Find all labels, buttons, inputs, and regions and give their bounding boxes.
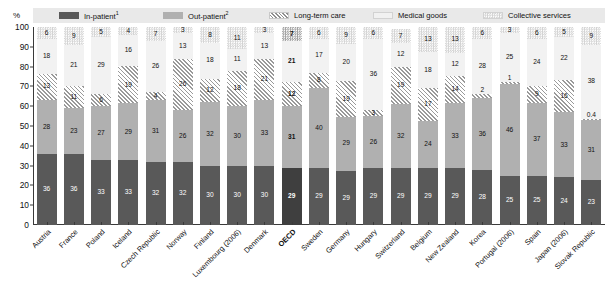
bar-segment-value: 22 (560, 55, 567, 62)
bar-segment-value: 12 (451, 61, 458, 68)
bar-stack: 920192929 (336, 27, 356, 225)
bar-segment: 6 (527, 27, 547, 39)
bar-segment: 12 (445, 53, 465, 77)
bar-stack: 63632629 (363, 27, 383, 225)
bar-segment: 14 (445, 76, 465, 103)
bar-segment-value: 18 (206, 57, 213, 64)
bar-segment: 36 (37, 154, 57, 225)
bar-segment-value: 12 (397, 51, 404, 58)
bar-column: 522163324 (550, 27, 577, 225)
x-tick-mark (74, 222, 75, 225)
bar-segment: 7 (282, 27, 302, 41)
bar-segment-value: 11 (70, 94, 77, 101)
bar-segment: 32 (200, 102, 220, 165)
x-label-cell: New Zealand (442, 226, 469, 299)
bar-segment: 25 (527, 176, 547, 225)
bar-column: 818123230 (196, 27, 223, 225)
bar-segment-value: 32 (179, 190, 186, 197)
bar-segment: 13 (254, 33, 274, 59)
bar-segment: 18 (200, 43, 220, 79)
bar-segment-value: 31 (588, 147, 595, 154)
bar-segment: 33 (118, 160, 138, 225)
bar-segment-value: 29 (125, 129, 132, 136)
plot-area: 0102030405060708090100 61813283692111233… (33, 27, 605, 225)
bar-segment: 30 (227, 106, 247, 165)
legend-item-in-patient: In-patient1 (59, 8, 119, 23)
x-label-cell: Switzerland (387, 226, 414, 299)
y-axis-unit-label: % (13, 11, 20, 20)
bar-segment-value: 3 (263, 27, 267, 34)
bar-segment-value: 32 (152, 190, 159, 197)
x-axis-country-label: Korea (468, 228, 487, 247)
bar-segment: 8 (200, 27, 220, 43)
bar-segment: 12 (282, 82, 302, 106)
bar-segment: 5 (554, 27, 574, 37)
bar-stack: 62823628 (472, 27, 492, 225)
bar-stack: 1318172429 (418, 27, 438, 225)
bar-segment-value: 36 (70, 186, 77, 193)
longterm-swatch (269, 12, 289, 19)
bar-segment: 17 (418, 88, 438, 121)
bar-segment: 6 (472, 27, 492, 39)
bar-stack: 818123230 (200, 27, 220, 225)
bar-segment: 30 (254, 166, 274, 225)
bar-segment-value: 5 (562, 29, 566, 36)
bar-segment-value: 25 (506, 54, 513, 61)
x-tick-mark (319, 222, 320, 225)
bar-segment: 29 (363, 168, 383, 225)
bar-segment-value: 18 (43, 53, 50, 60)
bar-segment-value: 46 (506, 127, 513, 134)
x-label-cell: Poland (87, 226, 114, 299)
y-tick-label: 100 (15, 22, 33, 32)
bar-segment: 31 (146, 100, 166, 161)
bar-segment-value: 37 (533, 136, 540, 143)
bar-segment-value: 6 (45, 30, 49, 37)
bar-segment-value: 30 (234, 133, 241, 140)
chart-legend: In-patient1Out-patient2Long-term careMed… (33, 8, 605, 23)
bar-segment: 9 (581, 27, 601, 45)
bar-stack: 522163324 (554, 27, 574, 225)
bar-segment: 30 (227, 166, 247, 225)
x-tick-mark (156, 222, 157, 225)
bar-segment: 7 (146, 27, 166, 41)
bar-segment-value: 16 (560, 93, 567, 100)
bar-segment-value: 12 (206, 87, 213, 94)
x-axis-country-label: Austria (30, 228, 52, 250)
bar-segment-value: 11 (234, 56, 241, 63)
bar-segment-value: 21 (261, 76, 268, 83)
bar-segment-value: 19 (343, 96, 350, 103)
x-label-cell: Denmark (251, 226, 278, 299)
x-axis-country-label: Spain (523, 228, 542, 247)
bar-segment-value: 23 (588, 199, 595, 206)
bar-segment: 4 (118, 27, 138, 35)
bar-segment-value: 29 (343, 195, 350, 202)
bar-column: 1312143329 (442, 27, 469, 225)
bar-segment: 31 (282, 106, 302, 167)
bar-segment: 26 (146, 41, 166, 92)
bar-segment-value: 28 (43, 124, 50, 131)
bar-segment: 28 (472, 170, 492, 225)
bar-segment-value: 8 (317, 77, 321, 84)
x-tick-mark (401, 222, 402, 225)
bar-segment-value: 24 (533, 59, 540, 66)
bar-segment-value: 7 (399, 33, 403, 40)
x-label-cell: Czech Republic (142, 226, 169, 299)
x-tick-mark (455, 222, 456, 225)
bar-segment-value: 7 (154, 31, 158, 38)
bar-segment-value: 36 (43, 186, 50, 193)
bar-segment: 18 (418, 52, 438, 87)
bar-stack: 313213330 (254, 27, 274, 225)
bar-segment: 12 (391, 43, 411, 67)
bar-segment: 23 (64, 108, 84, 154)
bar-stack: 1111183030 (227, 27, 247, 225)
bar-column: 313213330 (251, 27, 278, 225)
bar-segment: 11 (64, 86, 84, 108)
bar-segment-value: 30 (206, 192, 213, 199)
bar-column: 920192929 (333, 27, 360, 225)
x-label-cell: Norway (169, 226, 196, 299)
bar-segment: 37 (527, 103, 547, 176)
bar-segment-value: 14 (451, 86, 458, 93)
bar-column: 313262632 (169, 27, 196, 225)
bar-segment-value: 20 (343, 59, 350, 66)
bar-segment-value: 5 (99, 29, 103, 36)
